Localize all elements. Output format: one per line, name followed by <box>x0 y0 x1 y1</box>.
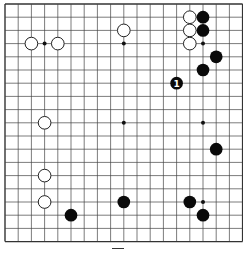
white-stone <box>117 24 130 37</box>
black-stone <box>197 24 210 37</box>
black-stone <box>197 64 210 77</box>
black-stone <box>197 209 210 222</box>
black-stone <box>183 196 196 209</box>
black-stone <box>210 50 223 63</box>
white-stone <box>25 37 38 50</box>
star-point <box>201 42 205 46</box>
white-stone <box>51 37 64 50</box>
white-stone <box>183 37 196 50</box>
black-stone <box>117 196 130 209</box>
go-board: 1 <box>0 0 243 246</box>
star-point <box>122 121 126 125</box>
star-point <box>201 121 205 125</box>
white-stone <box>38 116 51 129</box>
move-number-label: 1 <box>173 79 179 89</box>
diagram-caption <box>104 246 140 257</box>
star-point <box>43 42 47 46</box>
white-stone <box>38 169 51 182</box>
white-stone <box>183 24 196 37</box>
black-stone <box>210 143 223 156</box>
white-stone <box>183 11 196 24</box>
caption-mark <box>112 248 124 249</box>
black-stone <box>65 209 78 222</box>
star-point <box>122 42 126 46</box>
star-point <box>201 200 205 204</box>
black-stone <box>197 11 210 24</box>
white-stone <box>38 196 51 209</box>
